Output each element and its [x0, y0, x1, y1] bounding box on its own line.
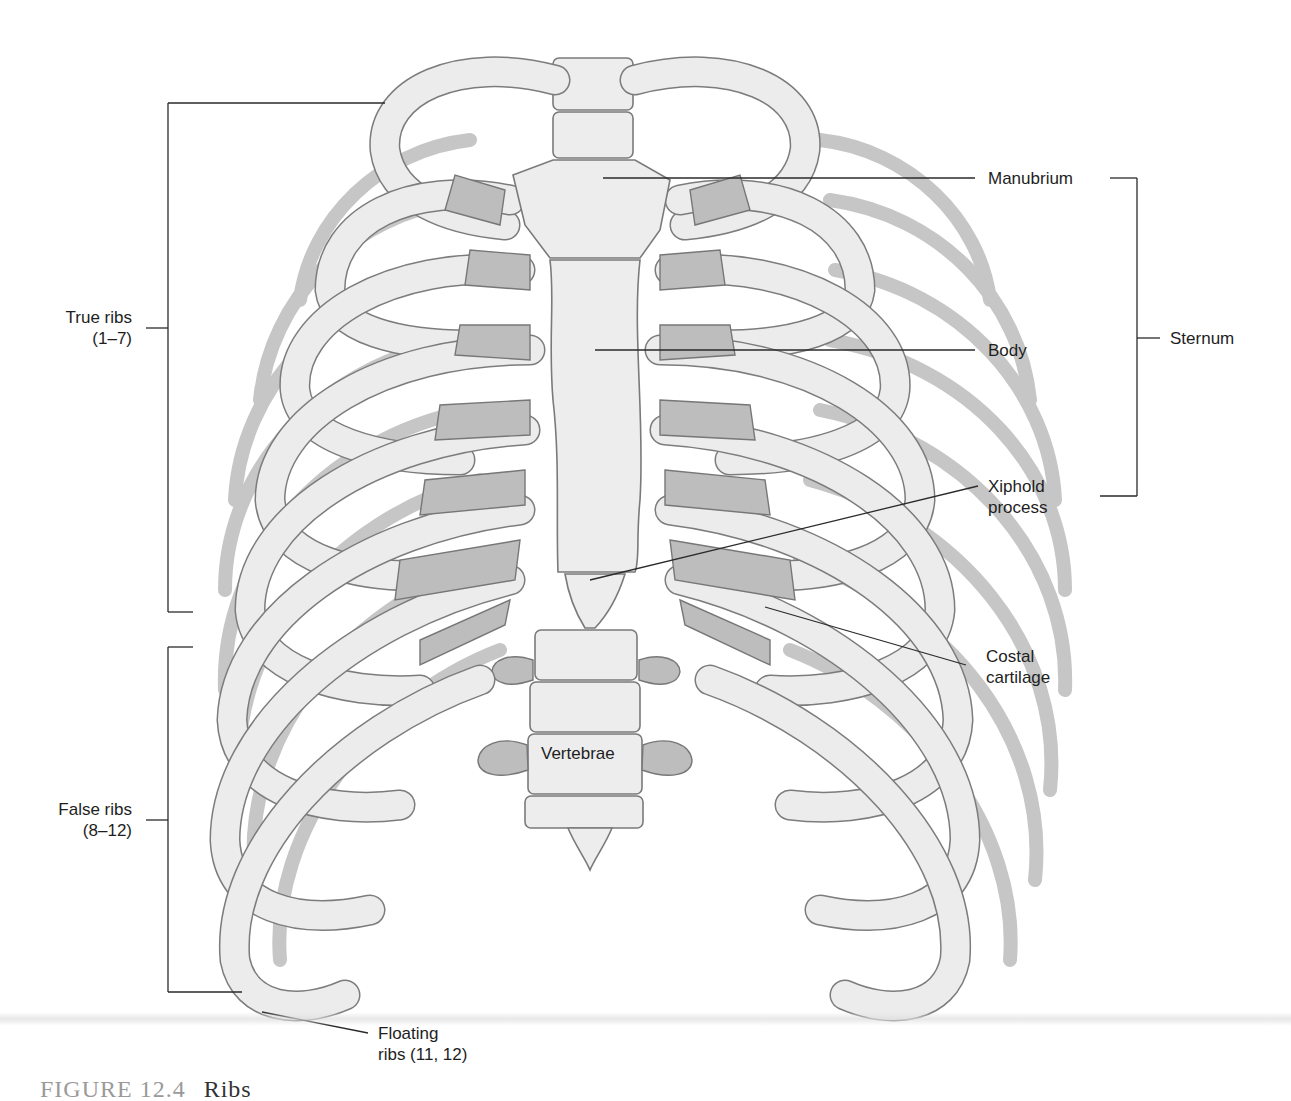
label-sternum: Sternum: [1170, 329, 1234, 349]
label-costal-2: cartilage: [986, 668, 1050, 688]
label-false-ribs-1: False ribs: [30, 800, 132, 820]
left-ribs: [225, 72, 555, 1006]
label-floating-ribs-2: ribs (11, 12): [378, 1045, 467, 1065]
label-true-ribs-1: True ribs: [40, 308, 132, 328]
scan-artifact-band: [0, 1012, 1291, 1026]
caption-title: Ribs: [204, 1076, 252, 1101]
sternum: [513, 160, 670, 628]
label-xiphoid-1: Xiphold: [988, 477, 1045, 497]
label-true-ribs-2: (1–7): [40, 329, 132, 349]
label-vertebrae: Vertebrae: [541, 744, 615, 764]
figure-caption: FIGURE 12.4Ribs: [40, 1076, 252, 1101]
label-costal-1: Costal: [986, 647, 1034, 667]
right-ribs: [635, 72, 965, 1006]
caption-number: FIGURE 12.4: [40, 1076, 186, 1101]
label-floating-ribs-1: Floating: [378, 1024, 438, 1044]
label-manubrium: Manubrium: [988, 169, 1073, 189]
label-false-ribs-2: (8–12): [30, 821, 132, 841]
label-xiphoid-2: process: [988, 498, 1048, 518]
label-body: Body: [988, 341, 1027, 361]
